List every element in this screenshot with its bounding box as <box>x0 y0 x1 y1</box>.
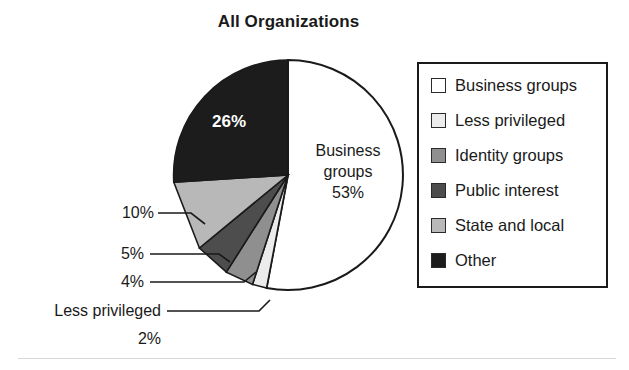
inner-label-line1: Business <box>300 140 396 161</box>
chart-page: All Organizations Business groups 53% 26… <box>0 0 629 370</box>
callout-label-public-interest: 5% <box>70 245 144 263</box>
legend-item-identity-groups[interactable]: Identity groups <box>431 144 563 166</box>
slice-label-other: 26% <box>212 112 246 132</box>
legend-swatch-state-and-local <box>431 218 446 233</box>
legend-swatch-less-privileged <box>431 113 446 128</box>
pie-inner-label: Business groups 53% <box>300 140 396 203</box>
legend-swatch-business-groups <box>431 78 446 93</box>
legend-label-other: Other <box>455 251 496 270</box>
legend-label-state-and-local: State and local <box>455 216 564 235</box>
inner-label-line2: groups <box>300 161 396 182</box>
legend: Business groups Less privileged Identity… <box>417 62 608 288</box>
inner-label-line3: 53% <box>300 182 396 203</box>
legend-swatch-identity-groups <box>431 148 446 163</box>
callout-line-2 <box>167 300 270 311</box>
legend-label-identity-groups: Identity groups <box>455 146 563 165</box>
legend-label-public-interest: Public interest <box>455 181 559 200</box>
legend-item-other[interactable]: Other <box>431 249 496 271</box>
legend-item-public-interest[interactable]: Public interest <box>431 179 559 201</box>
legend-label-business-groups: Business groups <box>455 76 577 95</box>
legend-item-state-and-local[interactable]: State and local <box>431 214 564 236</box>
bottom-divider <box>18 358 616 359</box>
callout-label-less-privileged-pct: 2% <box>90 330 161 348</box>
legend-item-less-privileged[interactable]: Less privileged <box>431 109 565 131</box>
legend-swatch-other <box>431 253 446 268</box>
legend-swatch-public-interest <box>431 183 446 198</box>
legend-label-less-privileged: Less privileged <box>455 111 565 130</box>
callout-label-identity-groups: 4% <box>70 273 144 291</box>
callout-label-state-and-local: 10% <box>70 204 154 222</box>
callout-label-less-privileged: Less privileged <box>10 302 161 320</box>
legend-item-business-groups[interactable]: Business groups <box>431 74 577 96</box>
